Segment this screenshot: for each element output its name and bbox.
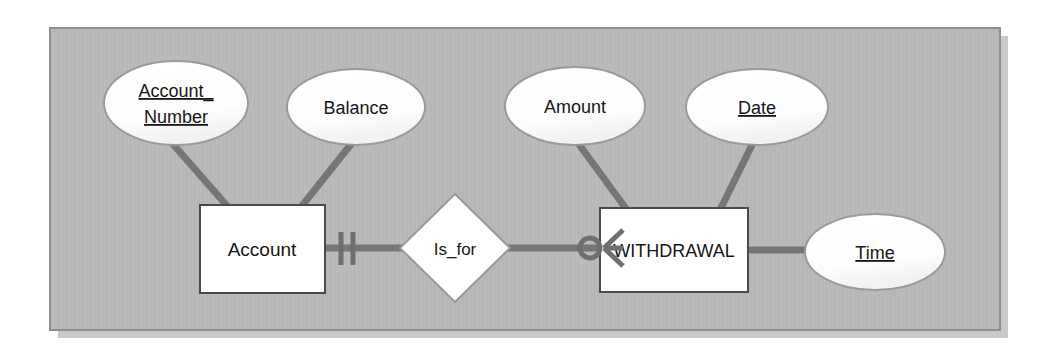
attribute-amount[interactable]: Amount	[505, 67, 645, 145]
attribute-time[interactable]: Time	[805, 214, 945, 290]
attribute-label: Time	[855, 243, 894, 263]
relationship-label: Is_for	[434, 240, 477, 259]
entity-label: WITHDRAWAL	[613, 241, 735, 261]
attribute-label: Date	[738, 98, 776, 118]
entity-label: Account	[228, 239, 297, 260]
attribute-label-line-1: Account_	[138, 81, 214, 102]
er-diagram-canvas: Account_ Number Balance Amount Date Time…	[0, 0, 1052, 357]
attribute-label-line-2: Number	[144, 107, 208, 127]
er-diagram-container: Account_ Number Balance Amount Date Time…	[0, 0, 1052, 357]
entity-account[interactable]: Account	[200, 205, 325, 293]
attribute-balance[interactable]: Balance	[287, 69, 425, 145]
attribute-label: Balance	[323, 98, 388, 118]
attribute-ellipse	[104, 61, 248, 145]
attribute-account-number[interactable]: Account_ Number	[104, 61, 248, 145]
attribute-date[interactable]: Date	[686, 69, 828, 145]
attribute-label: Amount	[544, 97, 606, 117]
